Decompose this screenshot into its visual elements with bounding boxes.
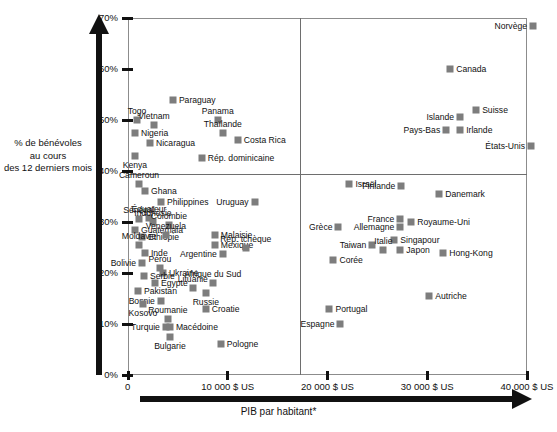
data-point-marker[interactable] bbox=[457, 127, 464, 134]
data-point-marker[interactable] bbox=[141, 188, 148, 195]
x-tick-mark-10000 bbox=[226, 371, 229, 380]
data-point-marker[interactable] bbox=[146, 139, 153, 146]
data-point-marker[interactable] bbox=[189, 285, 196, 292]
data-point-label: Vietnam bbox=[138, 112, 169, 121]
data-point-label: Moldavie bbox=[122, 231, 156, 240]
y-tick-label-wrap: 40% bbox=[82, 166, 118, 176]
data-point-label: Suisse bbox=[482, 105, 508, 114]
data-point-marker[interactable] bbox=[202, 290, 209, 297]
data-point-marker[interactable] bbox=[139, 300, 146, 307]
y-tick-label-70%: 70% bbox=[82, 13, 118, 23]
data-point-marker[interactable] bbox=[443, 127, 450, 134]
data-point-marker[interactable] bbox=[198, 155, 205, 162]
data-point-label: Bulgarie bbox=[154, 341, 186, 350]
data-point-marker[interactable] bbox=[219, 250, 226, 257]
data-point-label: Macédoine bbox=[176, 322, 218, 331]
data-point-label: Panama bbox=[202, 107, 234, 116]
x-tick-label-10000: 10 000 $ US bbox=[201, 382, 254, 392]
data-point-marker[interactable] bbox=[169, 96, 176, 103]
data-point-marker[interactable] bbox=[337, 321, 344, 328]
data-point-marker[interactable] bbox=[141, 249, 148, 256]
data-point-label: Grèce bbox=[309, 223, 332, 232]
data-point-marker[interactable] bbox=[380, 247, 387, 254]
data-point-marker[interactable] bbox=[473, 106, 480, 113]
data-point-marker[interactable] bbox=[346, 180, 353, 187]
data-point-marker[interactable] bbox=[326, 305, 333, 312]
y-tick-label-40%: 40% bbox=[82, 166, 118, 176]
y-tick-label-wrap: 0% bbox=[82, 370, 118, 380]
y-tick-label-wrap: 50% bbox=[82, 115, 118, 125]
data-point-marker[interactable] bbox=[164, 315, 171, 322]
data-point-marker[interactable] bbox=[217, 341, 224, 348]
data-point-label: Portugal bbox=[335, 304, 367, 313]
data-point-marker[interactable] bbox=[234, 137, 241, 144]
data-point-label: Bolivie bbox=[111, 258, 136, 267]
data-point-label: Pérou bbox=[148, 254, 171, 263]
x-tick-mark-40000 bbox=[526, 371, 529, 380]
data-point-label: Kenya bbox=[123, 160, 147, 169]
data-point-label: Autriche bbox=[435, 291, 467, 300]
quadrant-divider-horizontal bbox=[128, 174, 527, 175]
data-point-marker[interactable] bbox=[135, 180, 142, 187]
data-point-marker[interactable] bbox=[131, 152, 138, 159]
data-point-marker[interactable] bbox=[440, 249, 447, 256]
y-tick-mark-20% bbox=[122, 272, 133, 275]
data-point-marker[interactable] bbox=[408, 219, 415, 226]
scatter-chart: % de bénévolesau coursdes 12 derniers mo… bbox=[0, 0, 557, 432]
data-point-marker[interactable] bbox=[397, 216, 404, 223]
data-point-marker[interactable] bbox=[335, 224, 342, 231]
data-point-marker[interactable] bbox=[211, 231, 218, 238]
data-point-marker[interactable] bbox=[166, 333, 173, 340]
data-point-label: Colombie bbox=[151, 211, 187, 220]
data-point-label: Rép. tchèque bbox=[220, 234, 271, 243]
y-tick-label-wrap: 10% bbox=[82, 319, 118, 329]
x-tick-label-0: 0 bbox=[125, 382, 130, 392]
data-point-marker[interactable] bbox=[135, 241, 142, 248]
x-tick-mark-30000 bbox=[426, 371, 429, 380]
data-point-marker[interactable] bbox=[138, 259, 145, 266]
y-tick-mark-70% bbox=[122, 17, 133, 20]
data-point-marker[interactable] bbox=[219, 129, 226, 136]
data-point-label: Philippines bbox=[167, 197, 209, 206]
data-point-marker[interactable] bbox=[242, 244, 249, 251]
data-point-marker[interactable] bbox=[131, 129, 138, 136]
data-point-label: Pakistan bbox=[144, 286, 177, 295]
data-point-label: Roumanie bbox=[148, 305, 187, 314]
y-axis-title: % de bénévolesau coursdes 12 derniers mo… bbox=[2, 137, 94, 175]
y-axis-title-line-2: des 12 derniers mois bbox=[2, 162, 94, 175]
data-point-label: Finlande bbox=[362, 182, 395, 191]
data-point-marker[interactable] bbox=[447, 66, 454, 73]
data-point-label: Singapour bbox=[400, 235, 439, 244]
data-point-label: Rép. dominicaine bbox=[208, 154, 274, 163]
data-point-label: Turquie bbox=[131, 322, 160, 331]
data-point-marker[interactable] bbox=[426, 292, 433, 299]
data-point-label: Espagne bbox=[301, 320, 335, 329]
data-point-label: Croatie bbox=[212, 304, 240, 313]
data-point-marker[interactable] bbox=[251, 198, 258, 205]
data-point-marker[interactable] bbox=[162, 231, 169, 238]
y-axis-title-line-0: % de bénévoles bbox=[2, 137, 94, 150]
data-point-marker[interactable] bbox=[529, 22, 536, 29]
data-point-marker[interactable] bbox=[397, 247, 404, 254]
data-point-marker[interactable] bbox=[397, 224, 404, 231]
data-point-label: Ghana bbox=[151, 187, 177, 196]
data-point-label: Venezuela bbox=[146, 221, 186, 230]
data-point-marker[interactable] bbox=[166, 323, 173, 330]
data-point-label: Allemagne bbox=[354, 223, 395, 232]
data-point-marker[interactable] bbox=[330, 257, 337, 264]
data-point-marker[interactable] bbox=[140, 272, 147, 279]
data-point-marker[interactable] bbox=[436, 190, 443, 197]
data-point-label: Japon bbox=[406, 246, 429, 255]
data-point-marker[interactable] bbox=[398, 183, 405, 190]
x-tick-mark-20000 bbox=[326, 371, 329, 380]
data-point-marker[interactable] bbox=[209, 280, 216, 287]
x-axis-title: PIB par habitant* bbox=[0, 406, 557, 417]
y-axis-title-line-1: au cours bbox=[2, 150, 94, 163]
data-point-marker[interactable] bbox=[527, 142, 534, 149]
y-tick-label-0%: 0% bbox=[82, 370, 118, 380]
data-point-marker[interactable] bbox=[202, 305, 209, 312]
data-point-label: Corée bbox=[339, 256, 362, 265]
data-point-marker[interactable] bbox=[457, 114, 464, 121]
data-point-marker[interactable] bbox=[134, 287, 141, 294]
data-point-label: Paraguay bbox=[179, 95, 216, 104]
